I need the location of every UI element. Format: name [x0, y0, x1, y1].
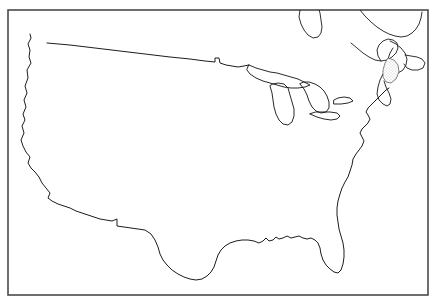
map-border-frame	[8, 10, 428, 295]
map-canvas	[0, 0, 437, 303]
us-outline-map-figure	[0, 0, 437, 303]
